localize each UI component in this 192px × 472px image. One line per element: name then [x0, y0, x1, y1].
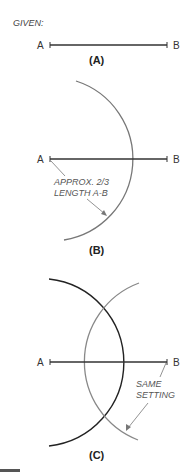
point-b-label: B [173, 40, 180, 51]
leader-line [51, 161, 65, 176]
point-a-label: A [37, 40, 44, 51]
panel-a: A B (A) [37, 40, 180, 66]
note-line-1: APPROX. 2/3 [53, 177, 109, 187]
leader-line [128, 403, 148, 428]
given-label: GIVEN: [13, 18, 44, 28]
point-b-label: B [173, 154, 180, 165]
construction-diagram: GIVEN: A B (A) A B APPROX. 2/3 LENGTH A-… [0, 0, 192, 472]
note-line-2: LENGTH A-B [54, 188, 108, 198]
note-line-1: SAME [136, 379, 163, 389]
note-line-2: SETTING [136, 390, 175, 400]
leader-line [160, 363, 166, 377]
point-a-label: A [37, 357, 44, 368]
leader-line [87, 199, 105, 214]
panel-caption: (B) [89, 244, 105, 256]
panel-b: A B APPROX. 2/3 LENGTH A-B (B) [37, 81, 180, 256]
point-a-label: A [37, 154, 44, 165]
compass-arc [64, 81, 133, 240]
panel-c: A B SAME SETTING (C) [37, 279, 180, 461]
panel-caption: (A) [89, 54, 105, 66]
point-b-label: B [173, 357, 180, 368]
panel-caption: (C) [89, 449, 105, 461]
